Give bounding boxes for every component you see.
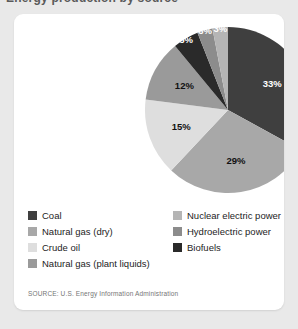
- legend-item-label: Natural gas (plant liquids): [42, 258, 150, 269]
- source-note: SOURCE: U.S. Energy Information Administ…: [28, 290, 178, 297]
- pie-slice-label: 33%: [263, 78, 283, 89]
- legend-item-label: Nuclear electric power: [187, 210, 281, 221]
- legend-item[interactable]: Natural gas (plant liquids): [28, 256, 173, 271]
- pie-slice-label: 3%: [198, 25, 212, 36]
- legend-swatch-icon: [173, 243, 182, 252]
- pie-slice-group: [145, 27, 284, 193]
- legend-item-label: Hydroelectric power: [187, 226, 271, 237]
- legend-swatch-icon: [173, 227, 182, 236]
- legend-item-label: Coal: [42, 210, 62, 221]
- legend-item[interactable]: Nuclear electric power: [173, 208, 284, 223]
- legend-item-label: Crude oil: [42, 242, 80, 253]
- legend-swatch-icon: [28, 243, 37, 252]
- pie-slice-label: 5%: [179, 34, 193, 45]
- legend-swatch-icon: [28, 211, 37, 220]
- pie-slice-label: 3%: [213, 25, 227, 34]
- legend-item-label: Biofuels: [187, 242, 221, 253]
- legend-item[interactable]: Crude oil: [28, 240, 173, 255]
- legend-item-label: Natural gas (dry): [42, 226, 113, 237]
- chart-card: 33%29%15%12%5%3%3% Coal Natural gas (dry…: [14, 14, 284, 310]
- page-title: Energy production by source: [6, 0, 178, 5]
- legend-column-left: Coal Natural gas (dry) Crude oil Natural…: [28, 208, 173, 272]
- chart-legend: Coal Natural gas (dry) Crude oil Natural…: [28, 208, 284, 272]
- page-title-strip: Energy production by source: [0, 0, 298, 14]
- pie-slice-label: 15%: [172, 121, 192, 132]
- legend-column-right: Nuclear electric power Hydroelectric pow…: [173, 208, 284, 272]
- legend-item[interactable]: Natural gas (dry): [28, 224, 173, 239]
- legend-swatch-icon: [173, 211, 182, 220]
- legend-item[interactable]: Hydroelectric power: [173, 224, 284, 239]
- pie-chart: 33%29%15%12%5%3%3%: [143, 25, 284, 195]
- pie-slice-label: 29%: [227, 155, 247, 166]
- legend-item[interactable]: Biofuels: [173, 240, 284, 255]
- legend-swatch-icon: [28, 227, 37, 236]
- pie-chart-svg: 33%29%15%12%5%3%3%: [143, 25, 284, 195]
- pie-slice-label: 12%: [175, 80, 195, 91]
- legend-item[interactable]: Coal: [28, 208, 173, 223]
- legend-swatch-icon: [28, 259, 37, 268]
